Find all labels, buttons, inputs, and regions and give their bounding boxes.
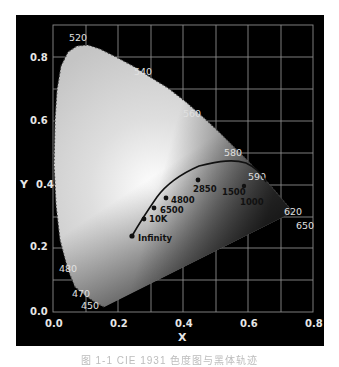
y-axis: 0.8 0.6 0.4 0.2 0.0 Y bbox=[19, 52, 54, 317]
wl-470: 470 bbox=[72, 288, 90, 299]
cct-label-infinity: Infinity bbox=[138, 233, 173, 243]
x-axis: 0.0 0.2 0.4 0.6 0.8 X bbox=[45, 318, 323, 344]
x-tick-0.4: 0.4 bbox=[175, 318, 193, 329]
y-tick-0.0: 0.0 bbox=[30, 306, 48, 317]
y-tick-0.6: 0.6 bbox=[30, 115, 48, 126]
x-axis-label: X bbox=[178, 331, 187, 344]
wl-620: 620 bbox=[284, 206, 302, 217]
wl-560: 560 bbox=[183, 108, 201, 119]
x-tick-0.8: 0.8 bbox=[305, 318, 323, 329]
cct-label-10k: 10K bbox=[149, 214, 168, 224]
wl-520: 520 bbox=[69, 32, 87, 43]
wl-540: 540 bbox=[134, 66, 152, 77]
figure-caption: 图 1-1 CIE 1931 色度图与黑体轨迹 bbox=[0, 352, 339, 367]
wl-580: 580 bbox=[224, 147, 242, 158]
cct-point-4800 bbox=[164, 196, 169, 201]
y-tick-0.4: 0.4 bbox=[36, 179, 54, 190]
x-tick-0.0: 0.0 bbox=[45, 318, 63, 329]
cct-label-4800: 4800 bbox=[171, 195, 195, 205]
x-tick-0.2: 0.2 bbox=[110, 318, 128, 329]
y-axis-label: Y bbox=[19, 178, 29, 191]
cct-label-2850: 2850 bbox=[193, 184, 217, 194]
cct-point-infinity bbox=[129, 233, 134, 238]
x-tick-0.6: 0.6 bbox=[240, 318, 258, 329]
wl-650: 650 bbox=[296, 220, 314, 231]
cct-label-1500: 1500 bbox=[222, 187, 246, 197]
y-tick-0.2: 0.2 bbox=[30, 241, 48, 252]
cct-point-2850 bbox=[196, 178, 201, 183]
wl-480: 480 bbox=[59, 263, 77, 274]
cct-label-1000: 1000 bbox=[240, 197, 264, 207]
cct-point-6500 bbox=[152, 206, 157, 211]
cct-label-6500: 6500 bbox=[160, 205, 184, 215]
wl-450: 450 bbox=[81, 300, 99, 311]
cct-point-10k bbox=[142, 217, 147, 222]
y-tick-0.8: 0.8 bbox=[30, 52, 48, 63]
